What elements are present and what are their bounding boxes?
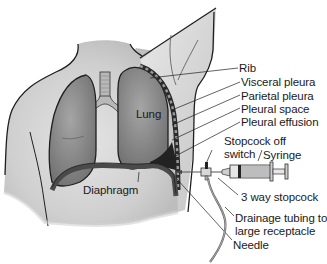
label-drainage-tubing-line2: large receptacle: [235, 225, 315, 237]
label-pleural-effusion: Pleural effusion: [241, 116, 318, 128]
label-syringe: Syringe: [263, 149, 301, 161]
label-stopcock-off-switch-line2: switch: [224, 148, 255, 160]
label-parietal-pleura: Parietal pleura: [241, 90, 314, 102]
label-visceral-pleura: Visceral pleura: [241, 76, 315, 88]
label-pleural-space: Pleural space: [241, 103, 309, 115]
label-stopcock-off-switch-line1: Stopcock off: [224, 135, 286, 147]
label-drainage-tubing-line1: Drainage tubing to: [235, 212, 327, 224]
label-rib: Rib: [239, 62, 256, 74]
label-needle: Needle: [233, 239, 269, 251]
label-3-way-stopcock: 3 way stopcock: [241, 191, 318, 203]
label-lung: Lung: [136, 108, 161, 120]
label-diaphragm: Diaphragm: [83, 184, 138, 196]
drainage-tubing: [208, 178, 225, 262]
